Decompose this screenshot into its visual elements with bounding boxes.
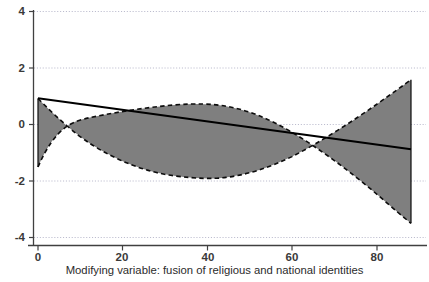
ytick-label--2: -2 — [0, 175, 25, 187]
xtick-label-80: 80 — [357, 251, 397, 264]
ytick-label-4: 4 — [0, 5, 25, 17]
y-tick-marks — [29, 12, 34, 238]
plot-canvas — [0, 0, 429, 282]
marginal-effects-chart: 4 2 0 -2 -4 0 20 40 60 80 Modifying vari… — [0, 0, 429, 282]
ytick-label-2: 2 — [0, 62, 25, 74]
x-tick-marks — [38, 246, 377, 251]
xtick-label-20: 20 — [102, 251, 142, 264]
ytick-label--4: -4 — [0, 231, 25, 243]
xtick-label-0: 0 — [18, 251, 58, 264]
x-axis-title: Modifying variable: fusion of religious … — [0, 264, 429, 276]
confidence-band-fill — [38, 80, 411, 224]
xtick-label-40: 40 — [188, 251, 228, 264]
xtick-label-60: 60 — [272, 251, 312, 264]
ytick-label-0: 0 — [0, 118, 25, 130]
